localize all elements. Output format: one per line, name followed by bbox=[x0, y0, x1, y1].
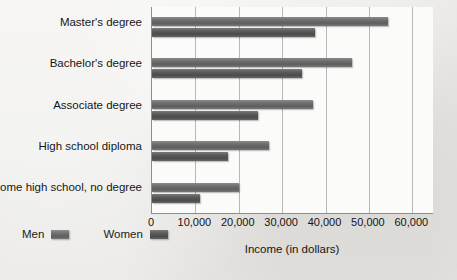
bar-men-0 bbox=[152, 17, 388, 26]
x-tick-label-3: 30,000 bbox=[264, 216, 298, 229]
x-tick-label-4: 40,000 bbox=[308, 216, 342, 229]
bar-women-4 bbox=[152, 194, 200, 203]
women-swatch-icon bbox=[150, 230, 168, 239]
bar-men-3 bbox=[152, 141, 269, 150]
gridline bbox=[412, 7, 413, 213]
legend-item-women: Women bbox=[103, 228, 167, 240]
plot-area bbox=[151, 7, 433, 214]
category-label-0: Master's degree bbox=[60, 16, 142, 28]
x-tick-label-1: 10,000 bbox=[178, 216, 212, 229]
bar-women-2 bbox=[152, 111, 258, 120]
gridline bbox=[282, 7, 283, 213]
category-label-3: High school diploma bbox=[38, 140, 142, 152]
x-tick-label-5: 50,000 bbox=[351, 216, 385, 229]
x-axis-title: Income (in dollars) bbox=[151, 243, 433, 255]
bar-women-1 bbox=[152, 69, 302, 78]
x-tick-label-2: 20,000 bbox=[221, 216, 255, 229]
men-swatch-icon bbox=[51, 230, 69, 239]
legend-label-women: Women bbox=[103, 228, 142, 240]
bar-men-1 bbox=[152, 58, 352, 67]
category-axis: Master's degreeBachelor's degreeAssociat… bbox=[0, 0, 148, 214]
gridline bbox=[369, 7, 370, 213]
bar-women-0 bbox=[152, 28, 315, 37]
x-tick-label-6: 60,000 bbox=[394, 216, 428, 229]
bar-men-4 bbox=[152, 183, 239, 192]
chart-legend: Men Women bbox=[22, 228, 168, 240]
bar-chart: Master's degreeBachelor's degreeAssociat… bbox=[0, 0, 457, 280]
legend-label-men: Men bbox=[22, 228, 44, 240]
category-label-2: Associate degree bbox=[53, 99, 142, 111]
gridline bbox=[326, 7, 327, 213]
category-label-1: Bachelor's degree bbox=[50, 57, 142, 69]
legend-item-men: Men bbox=[22, 228, 69, 240]
category-label-4: Some high school, no degree bbox=[0, 181, 142, 193]
bar-women-3 bbox=[152, 152, 228, 161]
bar-men-2 bbox=[152, 100, 313, 109]
